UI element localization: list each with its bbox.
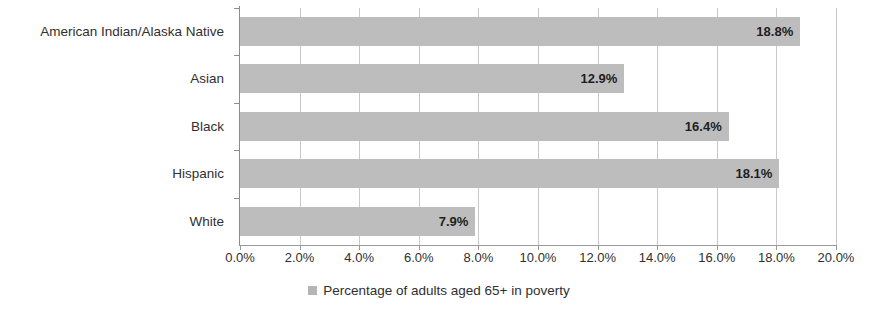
value-axis-tick-label: 4.0% <box>344 250 374 265</box>
category-axis-label: Black <box>191 103 224 150</box>
bar-row: 18.8% <box>240 8 836 55</box>
value-axis-tick-labels: 0.0%2.0%4.0%6.0%8.0%10.0%12.0%14.0%16.0%… <box>240 250 836 272</box>
category-axis-label: American Indian/Alaska Native <box>40 8 224 55</box>
category-axis-label: Hispanic <box>172 150 224 197</box>
value-axis-tick-label: 20.0% <box>818 250 855 265</box>
bar-value-label: 16.4% <box>240 112 729 141</box>
value-axis-tick-label: 18.0% <box>758 250 795 265</box>
bar-value-label: 7.9% <box>240 207 475 236</box>
bar-row: 16.4% <box>240 103 836 150</box>
plot-area: 18.8%12.9%16.4%18.1%7.9% <box>240 8 836 245</box>
category-axis-labels: American Indian/Alaska NativeAsianBlackH… <box>0 8 232 245</box>
value-axis-tick-label: 12.0% <box>579 250 616 265</box>
value-axis-tick-label: 16.0% <box>698 250 735 265</box>
legend-color-swatch <box>308 286 317 295</box>
chart-legend: Percentage of adults aged 65+ in poverty <box>0 283 878 298</box>
bar-row: 18.1% <box>240 150 836 197</box>
bar-value-label: 18.8% <box>240 17 800 46</box>
value-axis-tick-label: 2.0% <box>285 250 315 265</box>
category-axis-label: White <box>189 198 224 245</box>
bar-value-label: 18.1% <box>240 159 779 188</box>
value-axis-tick-label: 10.0% <box>520 250 557 265</box>
bar-value-label: 12.9% <box>240 64 624 93</box>
value-axis-tick-label: 8.0% <box>464 250 494 265</box>
gridline <box>836 8 837 245</box>
value-axis-tick-label: 0.0% <box>225 250 255 265</box>
legend-label: Percentage of adults aged 65+ in poverty <box>323 283 570 298</box>
category-axis-label: Asian <box>190 55 224 102</box>
bar-chart: American Indian/Alaska NativeAsianBlackH… <box>0 0 878 316</box>
bar-row: 7.9% <box>240 198 836 245</box>
value-axis-tick-label: 6.0% <box>404 250 434 265</box>
value-axis-tick-label: 14.0% <box>639 250 676 265</box>
bar-row: 12.9% <box>240 55 836 102</box>
